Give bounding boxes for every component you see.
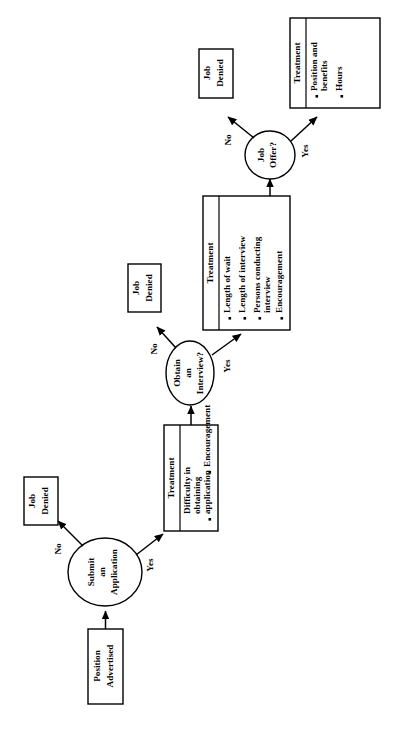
treatment-1-bullet-dot-1 [209, 518, 212, 521]
treatment-1-item-1-line-2: obtaining [192, 476, 202, 514]
edge-label-yes-1: Yes [145, 558, 155, 572]
node-job-denied-2: Job Denied [128, 264, 161, 312]
position-advertised-line2: Advertised [105, 645, 115, 688]
treatment-1-bullet-dot-2 [209, 471, 212, 474]
treatment-3-bullet-dot-1 [316, 95, 319, 98]
flowchart-canvas: Position Advertised Submit an Applicatio… [0, 0, 404, 741]
node-submit-an-application: Submit an Application [68, 538, 142, 606]
obtain-interview-line2: an [183, 368, 193, 378]
edge-label-no-3: No [223, 134, 233, 146]
treatment-2-item-1-line-1: Length of wait [222, 255, 232, 313]
job-denied-1-line2: Denied [40, 487, 50, 515]
treatment-2-bullet-dot-3 [259, 317, 262, 320]
submit-application-line3: Application [109, 549, 119, 595]
treatment-2-item-4-line-1: Encouragement [274, 250, 284, 313]
treatment-offer: Treatment Position and benefits Hours [290, 18, 380, 108]
node-job-denied-3: Job Denied [199, 49, 233, 98]
treatment-3-item-2-line-1: Hours [334, 66, 344, 91]
treatment-3-item-1-line-2: benefits [319, 60, 329, 91]
edge-label-no-1: No [53, 543, 63, 555]
node-job-offer: Job Offer? [245, 131, 295, 179]
treatment-1-item-2-line-1: Encouragement [202, 404, 212, 467]
treatment-3-header: Treatment [292, 42, 302, 84]
node-job-denied-1: Job Denied [24, 477, 58, 525]
obtain-interview-line3: Interview? [195, 351, 205, 394]
flowchart-svg: Position Advertised Submit an Applicatio… [0, 0, 404, 741]
treatment-1-item-1-line-1: Difficulty in [182, 467, 192, 514]
edge-label-yes-2: Yes [222, 359, 232, 373]
submit-application-line2: an [97, 567, 107, 577]
job-offer-line2: Offer? [268, 142, 278, 168]
job-offer-line1: Job [256, 148, 266, 162]
job-denied-2-line2: Denied [144, 274, 154, 302]
treatment-3-box [290, 18, 380, 108]
treatment-interview: Treatment Length of wait Length of inter… [203, 196, 290, 330]
treatment-2-bullet-dot-1 [229, 317, 232, 320]
treatment-1-item-1-line-3: application [202, 470, 212, 514]
edge-label-no-2: No [149, 343, 159, 355]
treatment-2-item-3-line-2: interview [262, 276, 272, 313]
submit-application-line1: Submit [86, 557, 96, 587]
treatment-3-item-1-line-1: Position and [309, 42, 319, 91]
job-denied-1-line1: Job [27, 494, 37, 508]
node-obtain-an-interview: Obtain an Interview? [166, 341, 214, 405]
treatment-2-item-3-line-1: Persons conducting [252, 236, 262, 313]
node-position-advertised: Position Advertised [88, 629, 123, 704]
treatment-2-header: Treatment [205, 242, 215, 284]
job-denied-3-line1: Job [202, 66, 212, 80]
treatment-1-header: Treatment [166, 457, 176, 499]
position-advertised-line1: Position [92, 650, 102, 682]
treatment-2-bullet-dot-2 [244, 317, 247, 320]
treatment-3-bullet-dot-2 [341, 95, 344, 98]
obtain-interview-line1: Obtain [172, 359, 182, 387]
edge-label-yes-3: Yes [300, 144, 310, 158]
treatment-2-bullet-dot-4 [281, 317, 284, 320]
job-denied-2-line1: Job [131, 281, 141, 295]
job-denied-3-line2: Denied [215, 59, 225, 87]
treatment-2-item-2-line-1: Length of interview [237, 236, 247, 313]
